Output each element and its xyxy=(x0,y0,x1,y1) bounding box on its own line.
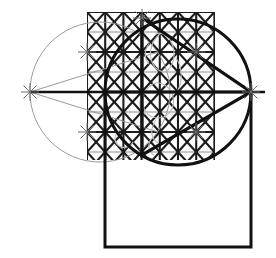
geometric-construction-svg xyxy=(0,0,276,258)
drawing-canvas xyxy=(0,0,276,258)
grid-top-right-tick xyxy=(187,43,205,61)
grid-top-left-tick xyxy=(78,43,96,61)
apex-tick xyxy=(133,9,151,27)
right-vertex-tick xyxy=(242,83,260,101)
grid-bottom-right-tick xyxy=(187,123,205,141)
grid-bottom-left-tick xyxy=(78,123,96,141)
left-vertex-tick xyxy=(21,83,39,101)
